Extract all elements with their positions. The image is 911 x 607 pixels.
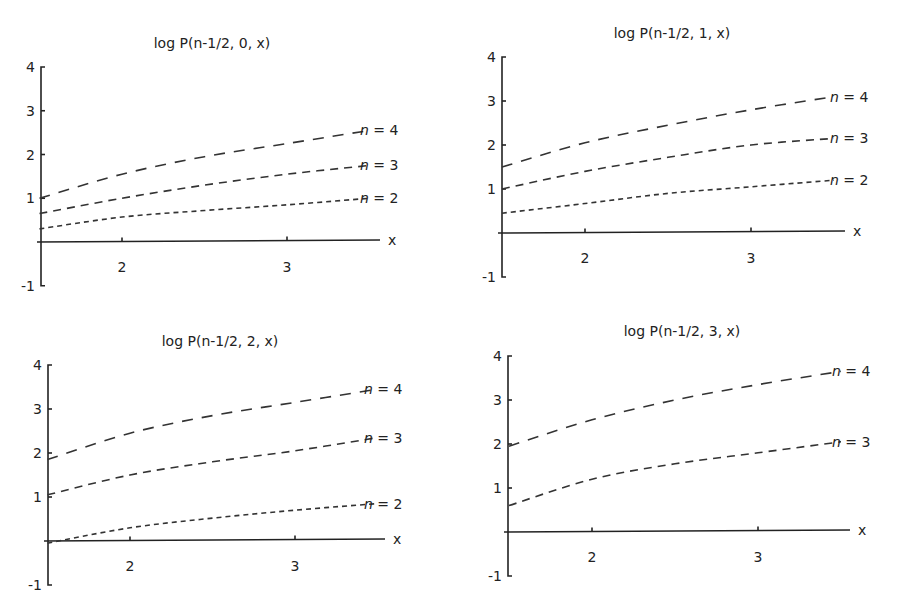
series-line-n2 bbox=[502, 180, 834, 213]
y-tick-label: -1 bbox=[488, 568, 502, 584]
plot-panel-m2: log P(n-1/2, 2, x)x4321-123n = 4n = 3n =… bbox=[0, 300, 455, 607]
x-tick-label: 2 bbox=[118, 259, 127, 275]
series-label: n = 4 bbox=[830, 89, 869, 105]
series-label: n = 3 bbox=[364, 430, 402, 446]
x-tick-label: 3 bbox=[747, 250, 756, 266]
y-tick-label: 4 bbox=[493, 348, 502, 364]
x-axis bbox=[44, 539, 385, 541]
x-axis-label: x bbox=[393, 531, 401, 547]
x-axis bbox=[504, 530, 850, 532]
series-label: n = 2 bbox=[360, 190, 398, 206]
y-tick-label: -1 bbox=[482, 269, 496, 285]
x-axis bbox=[37, 240, 380, 242]
y-tick-label: 1 bbox=[26, 190, 35, 206]
series-line-n3 bbox=[509, 442, 841, 506]
plot-title: log P(n-1/2, 1, x) bbox=[614, 25, 731, 41]
series-line-n3 bbox=[48, 438, 378, 495]
series-line-n3 bbox=[502, 138, 834, 189]
plot-svg: log P(n-1/2, 3, x)x4321-123n = 4n = 3 bbox=[455, 300, 911, 607]
series-line-n2 bbox=[40, 198, 370, 229]
y-tick-label: 3 bbox=[487, 93, 496, 109]
series-label: n = 4 bbox=[364, 381, 403, 397]
y-tick-label: 2 bbox=[33, 445, 42, 461]
y-tick-label: 3 bbox=[33, 401, 42, 417]
y-axis bbox=[48, 365, 52, 585]
x-axis-label: x bbox=[388, 232, 396, 248]
series-label: n = 3 bbox=[832, 434, 870, 450]
x-tick-label: 2 bbox=[126, 558, 135, 574]
y-tick-label: 2 bbox=[493, 436, 502, 452]
y-tick-label: -1 bbox=[28, 577, 42, 593]
series-line-n4 bbox=[48, 389, 378, 459]
y-tick-label: 4 bbox=[26, 59, 35, 75]
x-axis-label: x bbox=[858, 522, 866, 538]
plot-svg: log P(n-1/2, 0, x)x4321-123n = 4n = 3n =… bbox=[0, 0, 455, 300]
x-tick-label: 2 bbox=[588, 549, 597, 565]
y-tick-label: 4 bbox=[33, 357, 42, 373]
series-line-n4 bbox=[502, 97, 834, 167]
plot-title: log P(n-1/2, 2, x) bbox=[162, 333, 279, 349]
x-tick-label: 3 bbox=[754, 549, 763, 565]
plot-svg: log P(n-1/2, 2, x)x4321-123n = 4n = 3n =… bbox=[0, 300, 455, 607]
series-label: n = 3 bbox=[360, 157, 398, 173]
y-tick-label: 3 bbox=[26, 103, 35, 119]
plot-title: log P(n-1/2, 0, x) bbox=[154, 35, 271, 51]
y-tick-label: 2 bbox=[26, 147, 35, 163]
y-tick-label: 3 bbox=[493, 392, 502, 408]
series-line-n3 bbox=[40, 165, 370, 213]
plot-panel-m1: log P(n-1/2, 1, x)x4321-123n = 4n = 3n =… bbox=[455, 0, 911, 300]
x-tick-label: 2 bbox=[581, 250, 590, 266]
x-axis-label: x bbox=[853, 223, 861, 239]
x-tick-label: 3 bbox=[283, 259, 292, 275]
y-tick-label: 4 bbox=[487, 49, 496, 65]
plot-panel-m0: log P(n-1/2, 0, x)x4321-123n = 4n = 3n =… bbox=[0, 0, 455, 300]
y-tick-label: -1 bbox=[21, 278, 35, 294]
y-axis bbox=[41, 67, 45, 286]
y-tick-label: 1 bbox=[487, 181, 496, 197]
y-tick-label: 1 bbox=[33, 489, 42, 505]
y-axis bbox=[508, 356, 512, 576]
series-line-n2 bbox=[48, 504, 378, 544]
plot-svg: log P(n-1/2, 1, x)x4321-123n = 4n = 3n =… bbox=[455, 0, 911, 300]
series-label: n = 2 bbox=[364, 496, 402, 512]
series-label: n = 4 bbox=[360, 122, 399, 138]
series-line-n4 bbox=[509, 371, 841, 446]
y-tick-label: 1 bbox=[493, 480, 502, 496]
x-axis bbox=[498, 231, 845, 233]
series-label: n = 2 bbox=[830, 172, 868, 188]
plot-panel-m3: log P(n-1/2, 3, x)x4321-123n = 4n = 3 bbox=[455, 300, 911, 607]
series-label: n = 4 bbox=[832, 363, 871, 379]
series-label: n = 3 bbox=[830, 130, 868, 146]
series-line-n4 bbox=[40, 130, 370, 198]
plot-title: log P(n-1/2, 3, x) bbox=[624, 323, 741, 339]
x-tick-label: 3 bbox=[291, 558, 300, 574]
y-tick-label: 2 bbox=[487, 137, 496, 153]
